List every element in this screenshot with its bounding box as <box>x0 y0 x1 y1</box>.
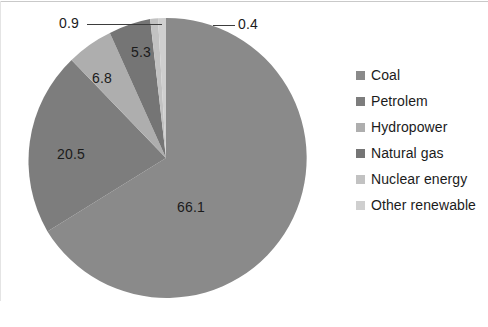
pie-chart-canvas: 0.9 0.4 5.3 6.8 20.5 66.1 Coal Petrolem … <box>0 0 488 327</box>
legend-label-natural-gas: Natural gas <box>371 145 444 161</box>
pie-label-natural-gas: 5.3 <box>131 44 151 60</box>
legend-label-other-renewable: Other renewable <box>371 197 476 213</box>
legend-item-other-renewable[interactable]: Other renewable <box>356 192 486 218</box>
legend-swatch-nuclear-energy <box>356 175 365 184</box>
legend-label-coal: Coal <box>371 67 400 83</box>
legend-swatch-other-renewable <box>356 201 365 210</box>
legend-swatch-petrolem <box>356 97 365 106</box>
legend-item-nuclear-energy[interactable]: Nuclear energy <box>356 166 486 192</box>
legend-swatch-natural-gas <box>356 149 365 158</box>
legend-item-natural-gas[interactable]: Natural gas <box>356 140 486 166</box>
legend-label-petrolem: Petrolem <box>371 93 428 109</box>
legend-item-coal[interactable]: Coal <box>356 62 486 88</box>
pie-label-nuclear-energy: 0.9 <box>59 15 79 31</box>
leader-line-nuclear-energy <box>87 24 162 25</box>
pie-label-petrolem: 20.5 <box>57 146 85 162</box>
chart-legend: Coal Petrolem Hydropower Natural gas Nuc… <box>356 62 486 218</box>
chart-frame-top-border <box>0 1 488 2</box>
pie-label-other-renewable: 0.4 <box>238 16 258 32</box>
leader-line-other-renewable <box>213 25 235 26</box>
chart-frame-left-border <box>0 1 1 301</box>
legend-item-hydropower[interactable]: Hydropower <box>356 114 486 140</box>
pie-label-hydropower: 6.8 <box>92 70 112 86</box>
legend-label-nuclear-energy: Nuclear energy <box>371 171 467 187</box>
legend-item-petrolem[interactable]: Petrolem <box>356 88 486 114</box>
legend-swatch-coal <box>356 71 365 80</box>
pie-label-coal: 66.1 <box>177 199 205 215</box>
legend-swatch-hydropower <box>356 123 365 132</box>
legend-label-hydropower: Hydropower <box>371 119 447 135</box>
